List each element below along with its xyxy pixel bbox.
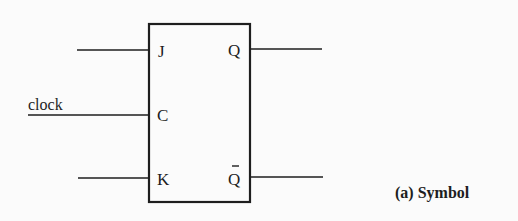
pin-label-k: K — [157, 170, 170, 189]
pin-label-q: Q — [228, 41, 240, 60]
pin-label-q-bar: Q — [228, 170, 240, 189]
jk-flip-flop-diagram: J C K Q Q clock (a) Symbol — [0, 0, 518, 221]
clock-signal-label: clock — [28, 96, 63, 113]
pin-label-j: J — [158, 42, 165, 61]
figure-caption: (a) Symbol — [395, 184, 470, 202]
pin-label-c: C — [157, 106, 168, 125]
